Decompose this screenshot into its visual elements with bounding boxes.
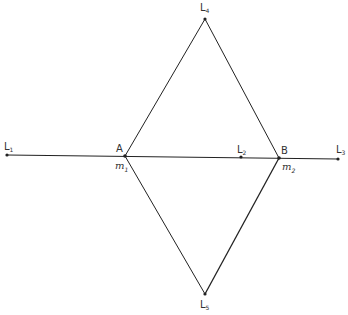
lagrange-points-diagram: L1 L2 L3 L4 L5 A B m1 m2: [0, 0, 348, 315]
point-l4: [203, 17, 206, 20]
point-l5: [203, 292, 206, 295]
line-l4-b: [205, 19, 279, 158]
label-l2: L2: [237, 144, 247, 156]
label-b: B: [281, 145, 288, 156]
point-l3: [336, 157, 339, 160]
label-l5: L5: [200, 299, 210, 311]
line-a-l4: [125, 19, 205, 156]
point-l1: [5, 153, 8, 156]
point-a: [123, 154, 127, 158]
line-l5-b: [205, 158, 279, 294]
label-a: A: [116, 143, 123, 154]
label-m1: m1: [115, 160, 128, 173]
line-a-l5: [125, 156, 205, 294]
point-b: [277, 156, 281, 160]
label-m2: m2: [282, 161, 295, 174]
label-l1: L1: [4, 141, 14, 153]
label-l3: L3: [336, 144, 346, 156]
line-l1-l3: [7, 155, 338, 159]
label-l4: L4: [200, 2, 210, 14]
